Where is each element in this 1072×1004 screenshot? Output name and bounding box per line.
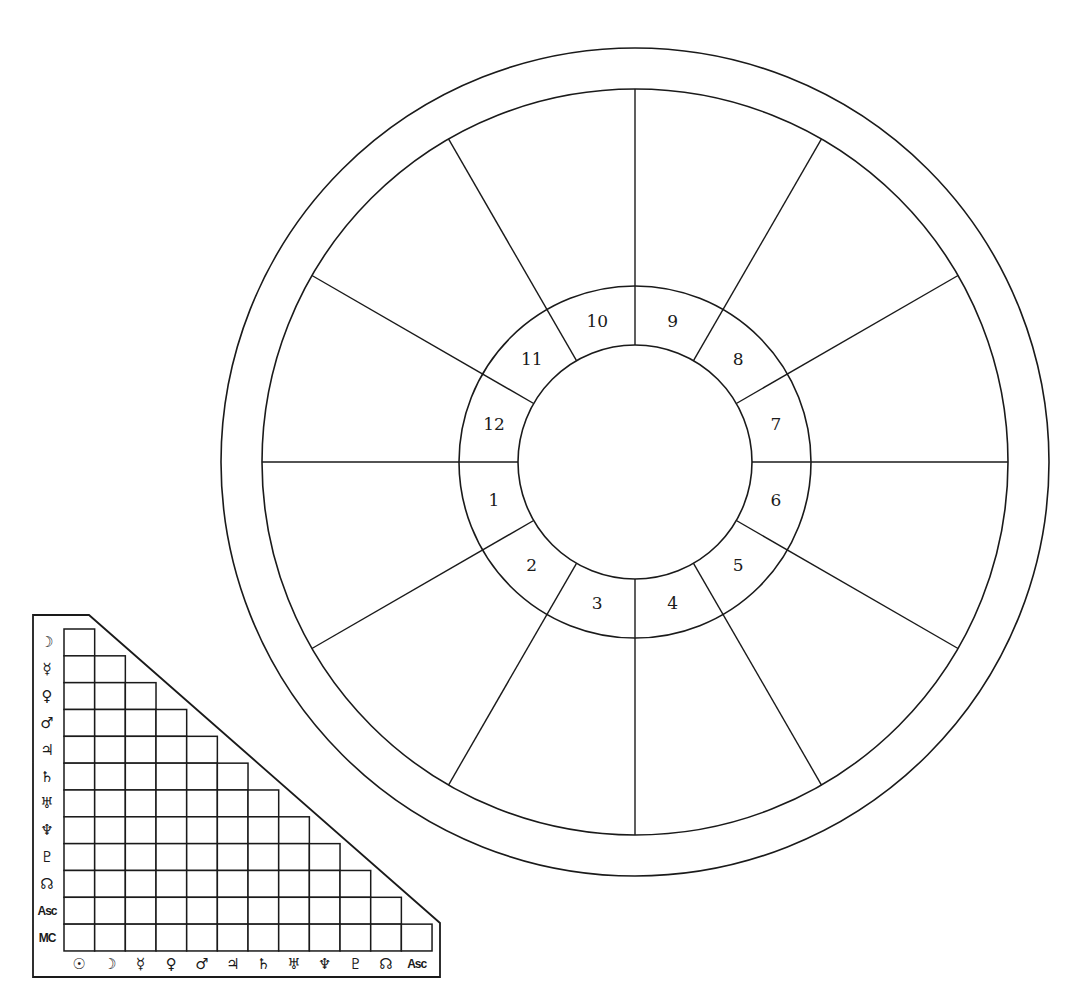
aspect-cell-saturn-sun[interactable] xyxy=(64,763,95,790)
aspect-cell-midheaven-sun[interactable] xyxy=(64,924,95,951)
aspect-cell-saturn-venus[interactable] xyxy=(156,763,187,790)
aspect-cell-north-node-jupiter[interactable] xyxy=(217,870,248,897)
house-number-9: 9 xyxy=(667,311,678,331)
aspect-cell-ascendant-pluto[interactable] xyxy=(340,897,371,924)
aspect-cell-midheaven-ascendant[interactable] xyxy=(401,924,432,951)
aspect-cell-midheaven-saturn[interactable] xyxy=(248,924,279,951)
aspect-cell-mars-mercury[interactable] xyxy=(125,709,156,736)
aspect-cell-neptune-mercury[interactable] xyxy=(125,817,156,844)
aspect-cell-midheaven-neptune[interactable] xyxy=(309,924,340,951)
aspect-cell-jupiter-mars[interactable] xyxy=(187,736,218,763)
aspect-cell-midheaven-pluto[interactable] xyxy=(340,924,371,951)
aspect-cell-pluto-mars[interactable] xyxy=(187,844,218,871)
north-node-icon: ☊ xyxy=(379,955,392,973)
aspect-cell-ascendant-saturn[interactable] xyxy=(248,897,279,924)
mars-icon: ♂ xyxy=(40,714,53,732)
venus-icon: ♀ xyxy=(166,955,177,973)
aspect-cell-ascendant-uranus[interactable] xyxy=(279,897,310,924)
aspect-cell-neptune-moon[interactable] xyxy=(95,817,126,844)
aspect-cell-ascendant-neptune[interactable] xyxy=(309,897,340,924)
moon-icon: ☽ xyxy=(103,955,116,973)
aspect-cell-ascendant-north-node[interactable] xyxy=(371,897,402,924)
aspect-cell-jupiter-sun[interactable] xyxy=(64,736,95,763)
aspect-cell-venus-mercury[interactable] xyxy=(125,683,156,710)
aspect-cell-mars-venus[interactable] xyxy=(156,709,187,736)
mercury-icon: ☿ xyxy=(42,660,51,678)
aspect-cell-midheaven-mercury[interactable] xyxy=(125,924,156,951)
aspect-cell-north-node-venus[interactable] xyxy=(156,870,187,897)
pluto-icon: ♇ xyxy=(40,848,53,866)
aspect-cell-north-node-neptune[interactable] xyxy=(309,870,340,897)
aspect-cell-midheaven-venus[interactable] xyxy=(156,924,187,951)
aspect-cell-jupiter-venus[interactable] xyxy=(156,736,187,763)
aspect-cell-north-node-moon[interactable] xyxy=(95,870,126,897)
aspect-cell-neptune-mars[interactable] xyxy=(187,817,218,844)
aspect-cell-neptune-saturn[interactable] xyxy=(248,817,279,844)
pluto-icon: ♇ xyxy=(349,955,362,973)
aspect-cell-north-node-saturn[interactable] xyxy=(248,870,279,897)
aspect-cell-north-node-mars[interactable] xyxy=(187,870,218,897)
chart-center-area[interactable] xyxy=(519,346,751,578)
aspect-cell-mercury-sun[interactable] xyxy=(64,656,95,683)
aspect-cell-neptune-sun[interactable] xyxy=(64,817,95,844)
aspect-cell-venus-moon[interactable] xyxy=(95,683,126,710)
jupiter-icon: ♃ xyxy=(226,955,239,973)
house-number-7: 7 xyxy=(771,414,782,434)
aspect-cell-midheaven-moon[interactable] xyxy=(95,924,126,951)
aspect-cell-mars-sun[interactable] xyxy=(64,709,95,736)
aspect-cell-pluto-sun[interactable] xyxy=(64,844,95,871)
aspect-cell-saturn-moon[interactable] xyxy=(95,763,126,790)
aspect-cell-neptune-uranus[interactable] xyxy=(279,817,310,844)
aspect-cell-midheaven-jupiter[interactable] xyxy=(217,924,248,951)
aspect-cell-uranus-venus[interactable] xyxy=(156,790,187,817)
aspect-cell-midheaven-north-node[interactable] xyxy=(371,924,402,951)
aspect-cell-north-node-mercury[interactable] xyxy=(125,870,156,897)
aspect-cell-neptune-venus[interactable] xyxy=(156,817,187,844)
house-number-10: 10 xyxy=(586,311,608,331)
aspect-cell-ascendant-sun[interactable] xyxy=(64,897,95,924)
aspect-cell-north-node-pluto[interactable] xyxy=(340,870,371,897)
aspect-cell-pluto-venus[interactable] xyxy=(156,844,187,871)
aspect-cell-ascendant-venus[interactable] xyxy=(156,897,187,924)
aspect-cell-pluto-mercury[interactable] xyxy=(125,844,156,871)
aspect-cell-ascendant-mars[interactable] xyxy=(187,897,218,924)
aspect-cell-jupiter-mercury[interactable] xyxy=(125,736,156,763)
house-number-5: 5 xyxy=(733,555,744,575)
venus-icon: ♀ xyxy=(42,687,53,705)
aspect-grid-row-labels: ☽☿♀♂♃♄♅♆♇☊AscMC xyxy=(37,633,57,944)
uranus-icon: ♅ xyxy=(287,955,300,973)
aspect-cell-uranus-mars[interactable] xyxy=(187,790,218,817)
aspect-cell-uranus-sun[interactable] xyxy=(64,790,95,817)
aspect-cell-pluto-uranus[interactable] xyxy=(279,844,310,871)
aspect-cell-uranus-saturn[interactable] xyxy=(248,790,279,817)
aspect-cell-saturn-jupiter[interactable] xyxy=(217,763,248,790)
aspect-cell-neptune-jupiter[interactable] xyxy=(217,817,248,844)
mercury-icon: ☿ xyxy=(136,955,145,973)
aspect-cell-jupiter-moon[interactable] xyxy=(95,736,126,763)
aspect-cell-pluto-moon[interactable] xyxy=(95,844,126,871)
aspect-cell-mars-moon[interactable] xyxy=(95,709,126,736)
aspect-cell-midheaven-mars[interactable] xyxy=(187,924,218,951)
aspect-cell-pluto-jupiter[interactable] xyxy=(217,844,248,871)
aspect-cell-ascendant-jupiter[interactable] xyxy=(217,897,248,924)
aspect-cell-pluto-saturn[interactable] xyxy=(248,844,279,871)
aspect-cell-midheaven-uranus[interactable] xyxy=(279,924,310,951)
house-number-1: 1 xyxy=(489,490,500,510)
aspect-cell-ascendant-moon[interactable] xyxy=(95,897,126,924)
aspect-cell-north-node-sun[interactable] xyxy=(64,870,95,897)
aspect-cell-uranus-mercury[interactable] xyxy=(125,790,156,817)
aspect-cell-saturn-mars[interactable] xyxy=(187,763,218,790)
aspect-cell-ascendant-mercury[interactable] xyxy=(125,897,156,924)
aspect-cell-north-node-uranus[interactable] xyxy=(279,870,310,897)
aspect-grid-column-labels: ☉☽☿♀♂♃♄♅♆♇☊Asc xyxy=(73,955,428,973)
aspect-cell-moon-sun[interactable] xyxy=(64,629,95,656)
house-number-8: 8 xyxy=(733,349,744,369)
jupiter-icon: ♃ xyxy=(40,741,53,759)
aspect-cell-mercury-moon[interactable] xyxy=(95,656,126,683)
aspect-cell-saturn-mercury[interactable] xyxy=(125,763,156,790)
house-number-12: 12 xyxy=(483,414,505,434)
aspect-cell-pluto-neptune[interactable] xyxy=(309,844,340,871)
aspect-cell-venus-sun[interactable] xyxy=(64,683,95,710)
aspect-cell-uranus-moon[interactable] xyxy=(95,790,126,817)
aspect-cell-uranus-jupiter[interactable] xyxy=(217,790,248,817)
